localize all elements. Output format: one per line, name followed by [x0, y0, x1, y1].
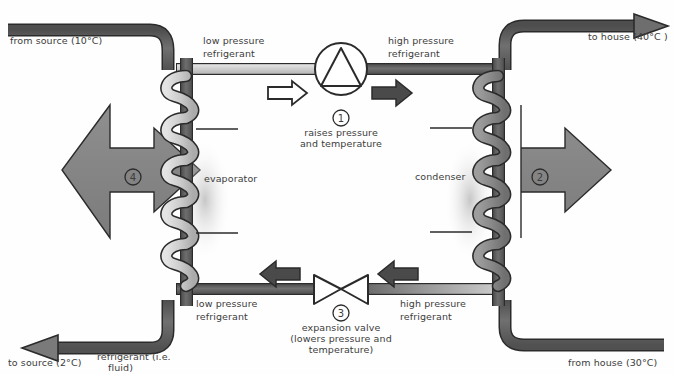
label-refrigerant-note-1: refrigerant (i.e. — [97, 351, 171, 362]
stage-1-number: 1 — [338, 113, 344, 124]
compressor-caption-line1: raises pressure — [304, 127, 378, 138]
compressor[interactable]: 1 raises pressure and temperature — [300, 43, 382, 149]
label-low-pressure-bottom-1: low pressure — [196, 298, 258, 309]
high-pressure-line-top — [366, 63, 503, 75]
label-to-house: to house (40°C ) — [588, 31, 668, 42]
high-pressure-line-bottom — [364, 283, 504, 295]
stage-2-number: 2 — [537, 172, 543, 183]
label-high-pressure-bottom-2: refrigerant — [400, 311, 452, 322]
valve-caption-line3: temperature) — [309, 344, 374, 355]
label-high-pressure-top-2: refrigerant — [388, 48, 440, 59]
label-low-pressure-top-2: refrigerant — [203, 48, 255, 59]
label-low-pressure-top-1: low pressure — [203, 35, 265, 46]
label-condenser: condenser — [415, 171, 466, 182]
flow-arrow-top-left — [268, 81, 307, 105]
label-refrigerant-note-2: fluid) — [108, 362, 133, 373]
label-to-source: to source (2°C) — [8, 357, 81, 368]
house-return-pipe — [505, 300, 664, 345]
low-pressure-line-top — [176, 63, 316, 75]
condenser-heat-arrow: 2 — [521, 105, 611, 238]
stage-4-number: 4 — [130, 172, 136, 183]
label-high-pressure-bottom-1: high pressure — [400, 298, 466, 309]
label-from-source: from source (10°C) — [10, 35, 102, 46]
diagram-canvas: 4 2 — [0, 0, 674, 374]
compressor-caption-line2: and temperature — [300, 138, 382, 149]
stage-3-number: 3 — [338, 308, 344, 319]
valve-caption-line2: (lowers pressure and — [290, 333, 392, 344]
label-from-house: from house (30°C) — [568, 357, 657, 368]
label-low-pressure-bottom-2: refrigerant — [196, 311, 248, 322]
heat-pump-diagram: 4 2 — [0, 0, 674, 374]
label-evaporator: evaporator — [204, 173, 257, 184]
house-supply-pipe — [505, 14, 668, 70]
flow-arrow-top-right — [372, 80, 412, 106]
valve-caption-line1: expansion valve — [302, 322, 381, 333]
label-high-pressure-top-1: high pressure — [388, 35, 454, 46]
